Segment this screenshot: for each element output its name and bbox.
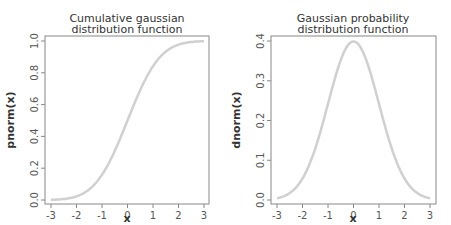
x-tick-label: -2 — [72, 210, 82, 221]
cdf-y-axis: 0.00.20.40.60.81.0 — [29, 33, 45, 208]
x-tick-label: -1 — [323, 210, 333, 221]
y-tick-label: 0.8 — [29, 65, 40, 81]
pdf-curve — [277, 41, 430, 198]
x-tick-label: 1 — [376, 210, 382, 221]
x-tick-label: 2 — [401, 210, 407, 221]
cdf-y-label: pnorm(x) — [4, 91, 17, 148]
x-tick-label: 3 — [427, 210, 433, 221]
pdf-title-line-2: distribution function — [297, 23, 408, 36]
cdf-x-label: x — [123, 212, 130, 225]
y-tick-label: 0.2 — [255, 113, 266, 129]
pdf-plot-box — [271, 36, 436, 204]
y-tick-label: 0.2 — [29, 160, 40, 176]
y-tick-label: 0.3 — [255, 73, 266, 89]
y-tick-label: 0.0 — [255, 192, 266, 208]
x-tick-label: -2 — [298, 210, 308, 221]
x-tick-label: 3 — [201, 210, 207, 221]
y-tick-label: 0.1 — [255, 152, 266, 168]
x-tick-label: 2 — [175, 210, 181, 221]
pdf-x-label: x — [349, 212, 356, 225]
cdf-curve — [51, 41, 204, 200]
pdf-panel: Gaussian probability distribution functi… — [230, 12, 436, 225]
y-tick-label: 1.0 — [29, 33, 40, 49]
y-tick-label: 0.4 — [255, 33, 266, 49]
x-tick-label: -1 — [97, 210, 107, 221]
y-tick-label: 0.6 — [29, 97, 40, 113]
x-tick-label: -3 — [46, 210, 56, 221]
cdf-title-line-2: distribution function — [71, 23, 182, 36]
cdf-panel: Cumulative gaussian distribution functio… — [4, 12, 209, 225]
pdf-y-label: dnorm(x) — [230, 91, 243, 148]
x-tick-label: 1 — [150, 210, 156, 221]
x-tick-label: -3 — [272, 210, 282, 221]
y-tick-label: 0.4 — [29, 128, 40, 144]
y-tick-label: 0.0 — [29, 192, 40, 208]
figure: Cumulative gaussian distribution functio… — [0, 0, 451, 225]
pdf-y-axis: 0.00.10.20.30.4 — [255, 33, 271, 208]
